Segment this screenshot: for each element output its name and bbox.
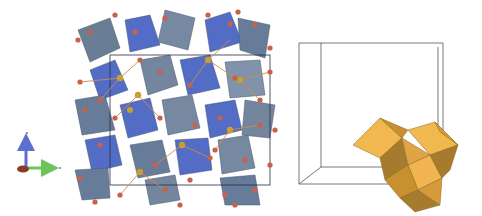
unit-cell-graphic: [290, 30, 482, 216]
axes-triad-graphic: [10, 128, 70, 178]
b-axis-label: [59, 167, 61, 169]
polyhedra: [75, 10, 275, 205]
c-axis-label: [26, 132, 28, 134]
crystal-structure-graphic: [70, 0, 290, 216]
unit-cell-panel: [290, 30, 482, 216]
axes-triad: [10, 128, 70, 178]
a-axis-arrow: [17, 166, 29, 173]
gold-polyhedra: [353, 118, 458, 212]
crystal-structure: [70, 0, 290, 216]
